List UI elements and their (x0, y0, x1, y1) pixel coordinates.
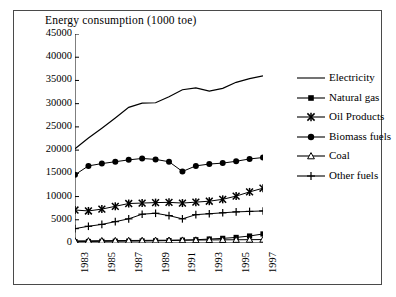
legend-item-oil-products[interactable]: Oil Products (296, 107, 388, 127)
x-tick-label: 1991 (186, 252, 197, 273)
legend-item-natural-gas[interactable]: Natural gas (296, 88, 388, 108)
legend-label: Coal (329, 149, 350, 161)
x-tick-label: 1993 (213, 252, 224, 273)
legend-label: Electricity (329, 71, 375, 83)
chart-figure: Energy consumption (1000 toe) 0500010000… (0, 0, 396, 297)
legend-label: Natural gas (329, 91, 379, 103)
legend-marker-icon (296, 88, 326, 108)
legend-label: Oil Products (329, 110, 384, 122)
series-canvas (75, 34, 263, 243)
legend-label: Biomass fuels (329, 130, 391, 142)
series-oil-products (75, 184, 263, 215)
x-tick-label: 1985 (106, 252, 117, 273)
legend-item-biomass-fuels[interactable]: Biomass fuels (296, 127, 388, 147)
plot-area (75, 34, 263, 243)
legend-marker-icon (296, 107, 326, 127)
legend-label: Other fuels (329, 169, 378, 181)
x-tick-label: 1995 (240, 252, 251, 273)
legend-item-electricity[interactable]: Electricity (296, 68, 388, 88)
legend-marker-icon (296, 127, 326, 147)
x-tick-label: 1997 (267, 252, 278, 273)
x-tick-label: 1989 (160, 252, 171, 273)
x-tick-label: 1987 (133, 252, 144, 273)
legend-item-other-fuels[interactable]: Other fuels (296, 166, 388, 186)
legend-marker-icon (296, 146, 326, 166)
x-tick-label: 1983 (79, 252, 90, 273)
legend-marker-icon (296, 68, 326, 88)
chart-legend: ElectricityNatural gasOil ProductsBiomas… (296, 68, 388, 185)
legend-marker-icon (296, 166, 326, 186)
legend-item-coal[interactable]: Coal (296, 146, 388, 166)
series-biomass-fuels (75, 155, 263, 178)
series-electricity (75, 76, 263, 149)
